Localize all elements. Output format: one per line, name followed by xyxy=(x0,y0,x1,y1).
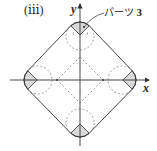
callout-number: 3 xyxy=(137,6,143,18)
callout-text: パーツ xyxy=(104,7,134,18)
x-axis-label: x xyxy=(143,82,149,94)
callout-label: パーツ 3 xyxy=(104,7,142,18)
panel-label: (ⅲ) xyxy=(24,4,44,16)
diagram-figure: (ⅲ) y x パーツ 3 1 1 xyxy=(0,0,157,151)
dimension-label-right: 1 xyxy=(86,31,89,36)
y-axis-label: y xyxy=(71,3,76,15)
diagram-canvas xyxy=(0,0,157,151)
dimension-label-left: 1 xyxy=(72,31,75,36)
